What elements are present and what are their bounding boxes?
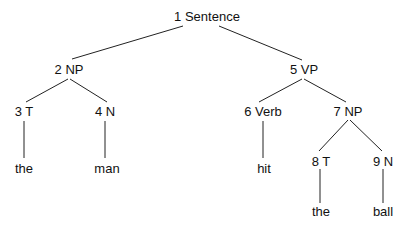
node-sentence: 1 Sentence bbox=[174, 10, 240, 24]
edge-np-n bbox=[70, 79, 107, 102]
node-n-4: 4 N bbox=[95, 105, 115, 119]
node-vp-5: 5 VP bbox=[290, 63, 318, 77]
leaf-the-1: the bbox=[15, 162, 33, 176]
node-t-8: 8 T bbox=[312, 155, 331, 169]
node-t-3: 3 T bbox=[15, 105, 34, 119]
parse-tree-diagram: 1 Sentence 2 NP 3 T 4 N 5 VP 6 Verb 7 NP… bbox=[0, 0, 408, 229]
leaf-hit: hit bbox=[257, 162, 271, 176]
edge-vp-verb bbox=[259, 79, 302, 102]
leaf-man: man bbox=[94, 162, 119, 176]
edge-np-t bbox=[26, 79, 68, 102]
edge-sentence-np bbox=[72, 26, 183, 59]
node-verb-6: 6 Verb bbox=[244, 105, 282, 119]
edge-vp-np bbox=[304, 79, 346, 102]
edge-sentence-vp bbox=[219, 26, 302, 60]
leaf-the-2: the bbox=[312, 205, 330, 219]
node-np-2: 2 NP bbox=[55, 63, 84, 77]
edge-np7-t8 bbox=[319, 120, 348, 151]
node-n-9: 9 N bbox=[373, 155, 393, 169]
node-np-7: 7 NP bbox=[334, 105, 363, 119]
leaf-ball: ball bbox=[373, 205, 393, 219]
edge-np7-n9 bbox=[350, 120, 382, 151]
